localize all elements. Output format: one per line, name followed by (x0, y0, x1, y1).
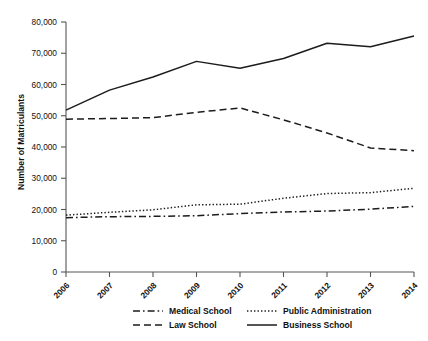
y-tick-label: 20,000 (32, 205, 58, 215)
x-tick-label: 2006 (51, 280, 71, 300)
legend-label-public-administration: Public Administration (283, 306, 372, 316)
y-axis-ticks: 010,00020,00030,00040,00050,00060,00070,… (32, 17, 66, 277)
x-tick-label: 2011 (269, 280, 289, 300)
y-tick-label: 70,000 (32, 48, 58, 58)
series-line-business-school (66, 36, 414, 110)
legend-label-law-school: Law School (169, 320, 217, 330)
x-tick-label: 2009 (182, 280, 202, 300)
y-tick-label: 50,000 (32, 111, 58, 121)
x-axis-ticks: 200620072008200920102011201220132014 (51, 272, 419, 300)
x-tick-label: 2014 (399, 280, 419, 300)
y-axis-title-group: Number of Matriculants (16, 94, 26, 190)
y-tick-label: 30,000 (32, 173, 58, 183)
y-tick-label: 10,000 (32, 236, 58, 246)
x-tick-label: 2008 (138, 280, 158, 300)
y-tick-label: 40,000 (32, 142, 58, 152)
line-chart: Number of Matriculants 010,00020,00030,0… (0, 0, 428, 341)
y-tick-label: 0 (52, 267, 57, 277)
x-tick-label: 2007 (95, 280, 115, 300)
series-line-medical-school (66, 206, 414, 217)
x-tick-label: 2012 (312, 280, 332, 300)
series-line-public-administration (66, 188, 414, 215)
y-axis-title: Number of Matriculants (16, 94, 26, 190)
x-tick-label: 2013 (356, 280, 376, 300)
legend-label-business-school: Business School (283, 320, 352, 330)
y-tick-label: 60,000 (32, 80, 58, 90)
x-tick-label: 2010 (225, 280, 245, 300)
chart-legend: Medical SchoolPublic AdministrationLaw S… (133, 306, 372, 330)
legend-label-medical-school: Medical School (169, 306, 232, 316)
series-line-law-school (66, 108, 414, 151)
y-tick-label: 80,000 (32, 17, 58, 27)
chart-container: Number of Matriculants 010,00020,00030,0… (0, 0, 428, 341)
series-group (66, 36, 414, 218)
